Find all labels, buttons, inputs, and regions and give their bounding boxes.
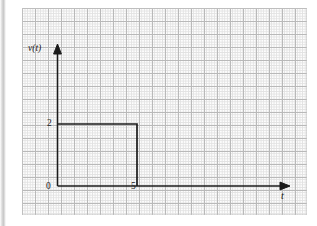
y-tick-label-2: 2: [47, 119, 52, 129]
graph-paper-grid: [22, 8, 307, 215]
page-left-edge-bar: [0, 0, 6, 226]
x-axis-label: t: [281, 191, 284, 201]
y-axis-label: v(t): [28, 44, 41, 54]
x-tick-label-5: 5: [131, 182, 136, 192]
origin-label: 0: [46, 182, 51, 192]
